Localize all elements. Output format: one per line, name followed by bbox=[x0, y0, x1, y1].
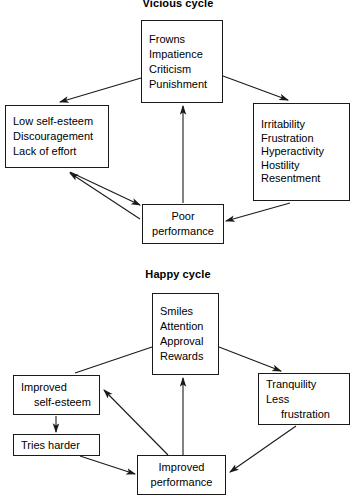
vicious-top-box-line: Impatience bbox=[142, 47, 222, 62]
vicious-top-box: FrownsImpatienceCriticismPunishment bbox=[141, 20, 223, 103]
vicious-right-box-line: Hyperactivity bbox=[254, 145, 349, 159]
happy-tranquility-box-line: Less bbox=[259, 392, 349, 407]
vicious-right-box: IrritabilityFrustrationHyperactivityHost… bbox=[253, 103, 350, 201]
happy-improved-performance-box-line: performance bbox=[151, 475, 213, 490]
happy-improved-performance-box-line: Improved bbox=[159, 460, 205, 475]
happy-tries-harder-box-line: Tries harder bbox=[14, 438, 99, 453]
vicious-left-box-line: Low self-esteem bbox=[6, 114, 108, 129]
arrow-happy-top-to-right bbox=[219, 347, 281, 371]
happy-top-box-line: Attention bbox=[153, 319, 218, 334]
happy-cycle-title: Happy cycle bbox=[0, 268, 356, 280]
vicious-right-box-line: Resentment bbox=[254, 172, 349, 186]
happy-top-box-line: Rewards bbox=[153, 349, 218, 364]
happy-tranquility-box: TranquilityLessfrustration bbox=[258, 373, 350, 425]
arrow-performance-to-left bbox=[70, 173, 140, 219]
happy-top-box: SmilesAttentionApprovalRewards bbox=[152, 293, 219, 375]
vicious-top-box-line: Frowns bbox=[142, 32, 222, 47]
vicious-top-box-line: Punishment bbox=[142, 77, 222, 92]
happy-improved-self-esteem-box: Improvedself-esteem bbox=[13, 375, 100, 415]
vicious-left-box: Low self-esteemDiscouragementLack of eff… bbox=[5, 105, 109, 168]
arrow-happy-top-to-left bbox=[75, 347, 152, 373]
happy-tries-harder-box: Tries harder bbox=[13, 434, 100, 456]
vicious-bottom-box-line: performance bbox=[152, 224, 214, 239]
happy-improved-self-esteem-box-line: Improved bbox=[14, 380, 99, 395]
happy-top-box-line: Smiles bbox=[153, 304, 218, 319]
arrow-top-to-right bbox=[223, 76, 288, 100]
vicious-right-box-line: Hostility bbox=[254, 159, 349, 173]
vicious-right-box-line: Irritability bbox=[254, 118, 349, 132]
vicious-left-box-line: Discouragement bbox=[6, 129, 108, 144]
arrow-right-to-performance bbox=[226, 203, 290, 221]
arrow-tries-harder-to-performance bbox=[80, 456, 135, 474]
happy-improved-performance-box: Improvedperformance bbox=[137, 455, 226, 495]
arrow-top-to-left bbox=[60, 78, 141, 102]
vicious-bottom-box-line: Poor bbox=[171, 209, 194, 224]
arrow-performance-to-self-esteem bbox=[104, 390, 168, 455]
arrow-tranquility-to-performance bbox=[230, 426, 296, 472]
vicious-bottom-box: Poorperformance bbox=[142, 204, 224, 244]
vicious-right-box-line: Frustration bbox=[254, 132, 349, 146]
vicious-left-box-line: Lack of effort bbox=[6, 144, 108, 159]
arrow-left-performance-double bbox=[70, 172, 140, 205]
happy-improved-self-esteem-box-line: self-esteem bbox=[14, 395, 99, 410]
happy-top-box-line: Approval bbox=[153, 334, 218, 349]
diagram-canvas: FrownsImpatienceCriticismPunishmentLow s… bbox=[0, 0, 356, 498]
happy-tranquility-box-line: frustration bbox=[259, 407, 349, 422]
vicious-top-box-line: Criticism bbox=[142, 62, 222, 77]
vicious-cycle-title: Vicious cycle bbox=[0, 0, 356, 9]
happy-tranquility-box-line: Tranquility bbox=[259, 377, 349, 392]
